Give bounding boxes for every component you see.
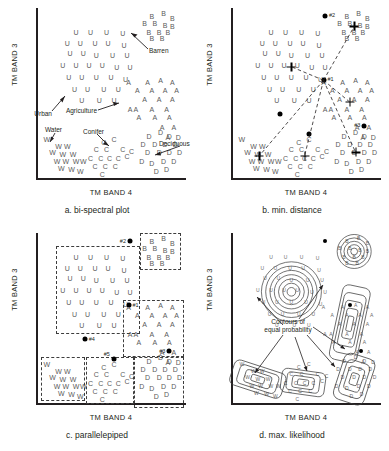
data-point-u: U — [66, 73, 71, 80]
data-point-c: C — [324, 147, 329, 154]
data-point-w: W — [273, 392, 278, 399]
data-point-c: C — [113, 162, 118, 169]
data-point-c: C — [306, 136, 311, 143]
y-axis-label: TM BAND 3 — [205, 25, 214, 105]
data-point-c: C — [307, 361, 311, 368]
annotation-barren: Barren — [149, 47, 169, 54]
data-point-u: U — [299, 28, 304, 35]
data-point-c: C — [284, 379, 288, 386]
data-point-u: U — [320, 277, 324, 284]
plot-area: UUUUUUUUUUUUUUUUUUUUUUUUUUUUUUUUBBBBBBBB… — [38, 8, 184, 176]
data-point-u: U — [267, 85, 272, 92]
data-point-w: W — [49, 149, 56, 156]
data-point-u: U — [127, 63, 132, 70]
data-point-u: U — [276, 50, 281, 57]
data-point-u: U — [301, 40, 306, 47]
panel-max-likelihood: TM BAND 3 TM BAND 4 d. max. likelihood U… — [195, 225, 389, 450]
data-point-d: D — [368, 366, 372, 373]
data-point-d: D — [152, 141, 157, 148]
data-point-d: D — [340, 149, 345, 156]
data-point-a: A — [329, 330, 332, 337]
data-point-b: B — [366, 240, 369, 247]
data-point-u: U — [289, 73, 294, 80]
data-point-w: W — [259, 142, 266, 149]
panel-caption: a. bi-spectral plot — [0, 205, 194, 215]
parallelepiped-box-agriculture — [123, 300, 184, 357]
data-point-u: U — [79, 73, 84, 80]
data-point-w: W — [260, 367, 265, 374]
data-point-d: D — [158, 129, 163, 136]
unknown-pixel-1 — [321, 78, 326, 83]
data-point-d: D — [354, 354, 358, 361]
data-point-c: C — [104, 146, 109, 153]
data-point-u: U — [73, 28, 78, 35]
data-point-c: C — [320, 152, 325, 159]
data-point-u: U — [81, 50, 86, 57]
data-point-a: A — [358, 87, 363, 94]
parallelepiped-box-barren — [140, 233, 181, 270]
data-point-u: U — [110, 52, 115, 59]
annotation-urban: Urban — [34, 110, 52, 117]
data-point-a: A — [157, 95, 162, 102]
data-point-a: A — [171, 124, 176, 131]
panel-parallelepiped: TM BAND 3 TM BAND 4 c. parallelepiped UU… — [0, 225, 194, 450]
data-point-d: D — [368, 141, 373, 148]
data-point-u: U — [283, 28, 288, 35]
data-point-d: D — [358, 366, 362, 373]
class-mean-cross-conifer — [300, 151, 309, 160]
data-point-d: D — [141, 141, 146, 148]
data-point-w: W — [272, 167, 279, 174]
unknown-pixel-3 — [167, 348, 172, 353]
data-point-a: A — [322, 303, 325, 310]
data-point-d: D — [349, 392, 353, 399]
data-point-b: B — [170, 15, 175, 22]
data-point-w: W — [253, 164, 260, 171]
data-point-a: A — [367, 349, 370, 356]
data-point-d: D — [367, 382, 371, 389]
data-point-c: C — [325, 372, 329, 379]
marker-label-1: #1 — [133, 302, 139, 308]
data-point-a: A — [174, 87, 179, 94]
annotation-contours-line1: Contours of — [271, 318, 305, 326]
data-point-u: U — [300, 253, 304, 260]
data-point-a: A — [152, 114, 157, 121]
data-point-a: A — [370, 312, 373, 319]
class-mean-cross-agriculture — [345, 98, 354, 107]
data-point-w: W — [268, 157, 275, 164]
data-point-b: B — [361, 28, 366, 35]
data-point-u: U — [301, 265, 305, 272]
data-point-c: C — [107, 154, 112, 161]
data-point-u: U — [310, 288, 314, 295]
data-point-w: W — [238, 136, 245, 143]
data-point-u: U — [322, 63, 327, 70]
data-point-u: U — [303, 73, 308, 80]
data-point-d: D — [362, 132, 367, 139]
data-point-a: A — [347, 114, 352, 121]
data-point-c: C — [287, 162, 292, 169]
data-point-a: A — [328, 105, 333, 112]
data-point-u: U — [65, 40, 70, 47]
data-point-a: A — [135, 87, 140, 94]
data-point-u: U — [104, 28, 109, 35]
data-point-a: A — [330, 87, 335, 94]
data-point-a: A — [353, 320, 356, 327]
unknown-pixel-4 — [277, 111, 282, 116]
data-point-a: A — [170, 95, 175, 102]
data-point-a: A — [142, 95, 147, 102]
unknown-pixel-4 — [82, 336, 87, 341]
data-point-u: U — [281, 310, 285, 317]
data-point-b: B — [338, 245, 341, 252]
data-point-b: B — [152, 20, 157, 27]
data-point-u: U — [309, 63, 314, 70]
data-point-u: U — [316, 255, 320, 262]
unknown-pixel-marker — [323, 239, 327, 243]
data-point-u: U — [306, 97, 311, 104]
data-point-u: U — [289, 52, 294, 59]
data-point-u: U — [73, 62, 78, 69]
x-axis-label: TM BAND 4 — [36, 413, 186, 422]
plot-area: UUUUUUUUUUUUUUUUUUUUUUUUUUUUUUUUBBBBBBBB… — [233, 8, 379, 176]
marker-label-3: #3 — [159, 348, 165, 354]
data-point-d: D — [357, 382, 361, 389]
data-point-a: A — [133, 105, 138, 112]
data-point-d: D — [347, 141, 352, 148]
